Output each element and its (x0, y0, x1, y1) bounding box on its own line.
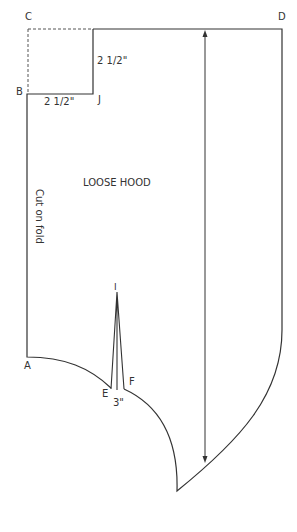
dart-width-measurement: 3" (113, 398, 124, 408)
notch-horizontal-measurement: 2 1/2" (44, 97, 74, 107)
notch-vertical-measurement: 2 1/2" (97, 56, 127, 66)
point-label-j: J (98, 95, 101, 105)
point-label-i: I (114, 283, 117, 292)
point-label-f: F (129, 377, 135, 387)
arrow-head-down-icon (203, 456, 208, 463)
dart-lines (111, 292, 124, 390)
pattern-title: LOOSE HOOD (83, 177, 151, 188)
point-label-a: A (24, 361, 31, 371)
hood-pattern-drawing (0, 0, 297, 532)
notch-dashed-outline (28, 29, 93, 94)
point-label-e: E (102, 389, 108, 399)
arrow-head-up-icon (203, 30, 208, 37)
point-label-c: C (25, 12, 32, 22)
point-label-d: D (278, 12, 286, 22)
cut-on-fold-label: Cut on fold (34, 189, 45, 244)
point-label-b: B (16, 87, 23, 97)
